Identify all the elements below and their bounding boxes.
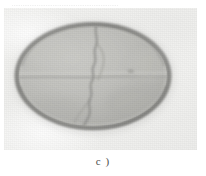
specimen-photograph <box>4 8 197 150</box>
page-running-text: ........................................… <box>12 2 192 7</box>
figure-caption: c ) <box>0 155 206 167</box>
figure-panel-c: ........................................… <box>0 0 206 176</box>
specimen-image <box>4 8 197 150</box>
